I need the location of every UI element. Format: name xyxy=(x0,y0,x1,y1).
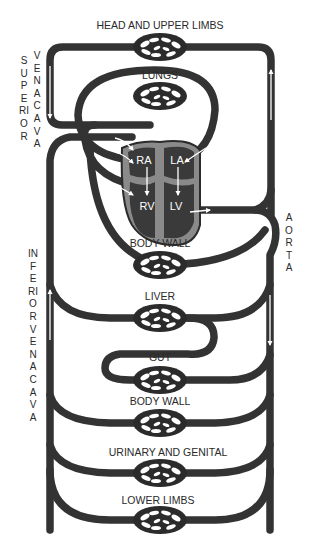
label-rv: RV xyxy=(139,200,154,212)
capillary-gut-icon xyxy=(133,366,187,394)
label-lv: LV xyxy=(170,200,183,212)
capillary-lower-limbs-icon xyxy=(133,506,187,534)
label-superior: SUPERIOR xyxy=(19,55,29,143)
label-liver: LIVER xyxy=(145,290,175,302)
label-lower-limbs: LOWER LIMBS xyxy=(122,494,195,506)
label-inferior-vena-cava: INFERIOR VENA CAVA xyxy=(28,248,38,424)
label-aorta: AORTA xyxy=(284,212,294,275)
label-lungs: LUNGS xyxy=(142,69,178,81)
label-ra: RA xyxy=(136,154,151,166)
label-gut: GUT xyxy=(149,351,171,363)
heart xyxy=(122,141,200,245)
capillary-body-wall-lower-icon xyxy=(133,409,187,437)
capillary-lungs-icon xyxy=(133,82,187,110)
label-la: LA xyxy=(170,154,183,166)
capillary-head-icon xyxy=(133,33,187,61)
capillary-liver-icon xyxy=(133,304,187,332)
label-urinary-genital: URINARY AND GENITAL xyxy=(109,446,227,458)
label-vena-cava-superior: VENA CAVA xyxy=(32,50,42,151)
capillary-body-wall-icon xyxy=(133,251,187,279)
label-body-wall-lower: BODY WALL xyxy=(130,395,191,407)
circulation-diagram xyxy=(0,0,313,554)
label-body-wall-upper: BODY WALL xyxy=(130,237,191,249)
label-head-upper-limbs: HEAD AND UPPER LIMBS xyxy=(96,19,223,31)
capillary-urinary-icon xyxy=(133,459,187,487)
